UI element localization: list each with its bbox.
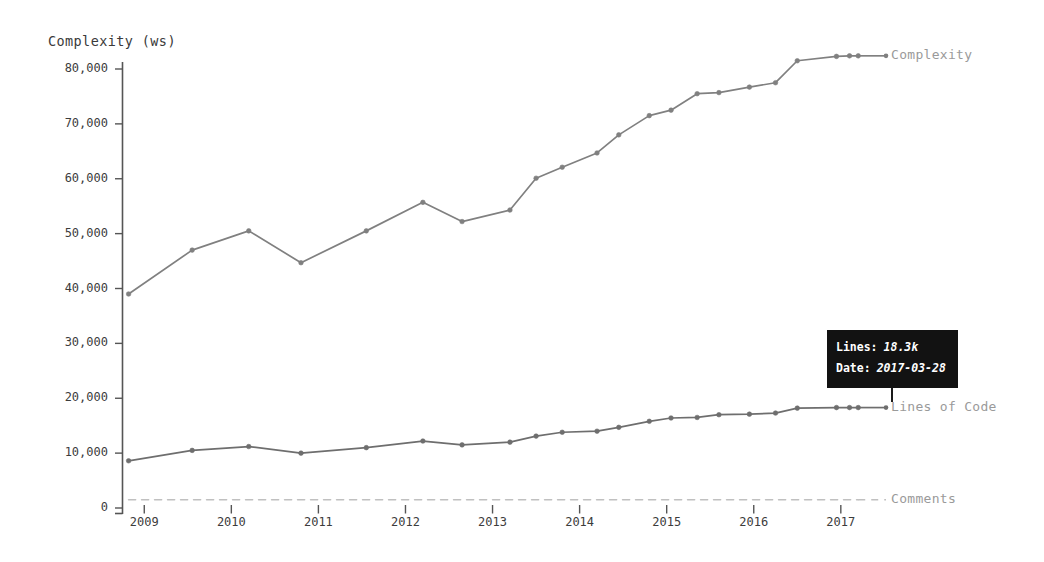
series-marker[interactable] (421, 200, 426, 205)
series-marker[interactable] (421, 439, 426, 444)
tooltip-lines-key: Lines: (836, 340, 878, 354)
data-point-tooltip: Lines:18.3k Date:2017-03-28 (827, 330, 958, 388)
tooltip-date-key: Date: (836, 361, 871, 375)
series-marker[interactable] (508, 208, 513, 213)
chart-canvas: Complexity (ws) 010,00020,00030,00040,00… (0, 0, 1044, 562)
tooltip-lines-value: 18.3k (884, 340, 919, 354)
series-marker[interactable] (695, 415, 700, 420)
axes (115, 62, 841, 514)
y-tick-label: 80,000 (28, 61, 108, 75)
legend-swatches (858, 54, 888, 500)
series-marker[interactable] (717, 412, 722, 417)
series-marker[interactable] (847, 54, 852, 59)
y-tick-label: 0 (28, 500, 108, 514)
x-tick-label: 2011 (283, 515, 353, 529)
series-marker[interactable] (669, 416, 674, 421)
x-tick-label: 2009 (109, 515, 179, 529)
series-marker[interactable] (190, 448, 195, 453)
series-marker[interactable] (246, 229, 251, 234)
series-marker[interactable] (747, 85, 752, 90)
series-line (129, 56, 859, 294)
x-tick-label: 2015 (632, 515, 702, 529)
series-marker[interactable] (364, 229, 369, 234)
y-tick-label: 60,000 (28, 171, 108, 185)
series-marker[interactable] (773, 411, 778, 416)
series-marker[interactable] (299, 260, 304, 265)
series-marker[interactable] (190, 248, 195, 253)
series-marker[interactable] (647, 419, 652, 424)
series-marker[interactable] (717, 90, 722, 95)
tooltip-date-value: 2017-03-28 (877, 361, 946, 375)
legend-marker (884, 54, 889, 59)
x-axis-ticks (144, 505, 841, 514)
legend-item-complexity[interactable]: Complexity (891, 47, 972, 62)
line-chart-plot (0, 0, 1044, 562)
series-marker[interactable] (747, 412, 752, 417)
series-marker[interactable] (834, 54, 839, 59)
series-marker[interactable] (299, 451, 304, 456)
y-axis-ticks (115, 69, 123, 508)
y-tick-label: 50,000 (28, 226, 108, 240)
tooltip-row-date: Date:2017-03-28 (836, 358, 958, 379)
legend-item-comments[interactable]: Comments (891, 491, 956, 506)
y-tick-label: 40,000 (28, 281, 108, 295)
series-marker[interactable] (534, 176, 539, 181)
x-tick-label: 2016 (719, 515, 789, 529)
series-marker[interactable] (126, 292, 131, 297)
y-tick-label: 10,000 (28, 445, 108, 459)
series-marker[interactable] (773, 80, 778, 85)
series-marker[interactable] (695, 91, 700, 96)
tooltip-pointer (891, 388, 893, 402)
series-marker[interactable] (534, 434, 539, 439)
y-tick-label: 70,000 (28, 116, 108, 130)
series-marker[interactable] (508, 440, 513, 445)
x-tick-label: 2017 (806, 515, 876, 529)
data-series-group (126, 54, 860, 500)
series-marker[interactable] (795, 58, 800, 63)
series-marker[interactable] (847, 405, 852, 410)
y-tick-label: 30,000 (28, 335, 108, 349)
x-tick-label: 2012 (370, 515, 440, 529)
x-tick-label: 2014 (545, 515, 615, 529)
series-marker[interactable] (795, 406, 800, 411)
series-marker[interactable] (460, 219, 465, 224)
y-tick-label: 20,000 (28, 390, 108, 404)
series-marker[interactable] (560, 430, 565, 435)
x-tick-label: 2013 (458, 515, 528, 529)
series-marker[interactable] (364, 445, 369, 450)
series-marker[interactable] (126, 459, 131, 464)
series-marker[interactable] (647, 113, 652, 118)
series-marker[interactable] (560, 165, 565, 170)
x-tick-label: 2010 (196, 515, 266, 529)
series-marker[interactable] (669, 108, 674, 113)
series-marker[interactable] (595, 429, 600, 434)
series-marker[interactable] (616, 425, 621, 430)
series-marker[interactable] (595, 151, 600, 156)
series-marker[interactable] (834, 405, 839, 410)
series-marker[interactable] (246, 444, 251, 449)
legend-item-lines-of-code[interactable]: Lines of Code (891, 399, 997, 414)
legend-marker (884, 405, 889, 410)
series-marker[interactable] (616, 133, 621, 138)
series-marker[interactable] (460, 443, 465, 448)
tooltip-row-lines: Lines:18.3k (836, 337, 958, 358)
